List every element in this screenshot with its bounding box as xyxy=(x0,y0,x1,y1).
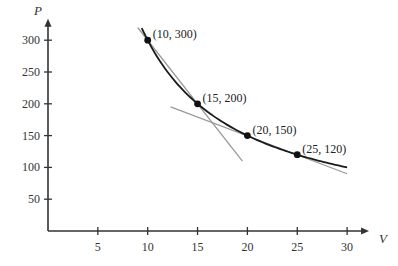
data-point xyxy=(294,151,301,158)
x-tick-label: 20 xyxy=(241,240,253,254)
data-point xyxy=(244,132,251,139)
x-axis-label: V xyxy=(379,231,389,246)
data-point-label: (20, 150) xyxy=(252,123,296,137)
y-tick-label: 250 xyxy=(22,65,40,79)
y-tick-label: 100 xyxy=(22,160,40,174)
y-tick-label: 150 xyxy=(22,129,40,143)
x-tick-label: 5 xyxy=(95,240,101,254)
chart: 51015202530 50100150200250300 V P (10, 3… xyxy=(0,0,398,266)
data-point xyxy=(194,100,201,107)
y-axis-arrow-icon xyxy=(45,19,52,27)
axes: 51015202530 50100150200250300 V P xyxy=(22,3,389,254)
x-tick-label: 10 xyxy=(142,240,154,254)
x-axis-arrow-icon xyxy=(361,228,369,235)
data-points: (10, 300)(15, 200)(20, 150)(25, 120) xyxy=(144,27,346,158)
data-point-label: (15, 200) xyxy=(203,91,247,105)
y-axis-label: P xyxy=(33,3,42,18)
y-tick-label: 50 xyxy=(28,192,40,206)
x-tick-label: 30 xyxy=(341,240,353,254)
x-tick-label: 25 xyxy=(291,240,303,254)
data-point-label: (25, 120) xyxy=(302,142,346,156)
y-tick-label: 200 xyxy=(22,97,40,111)
data-point xyxy=(144,37,151,44)
x-tick-label: 15 xyxy=(192,240,204,254)
y-tick-label: 300 xyxy=(22,33,40,47)
data-point-label: (10, 300) xyxy=(153,27,197,41)
